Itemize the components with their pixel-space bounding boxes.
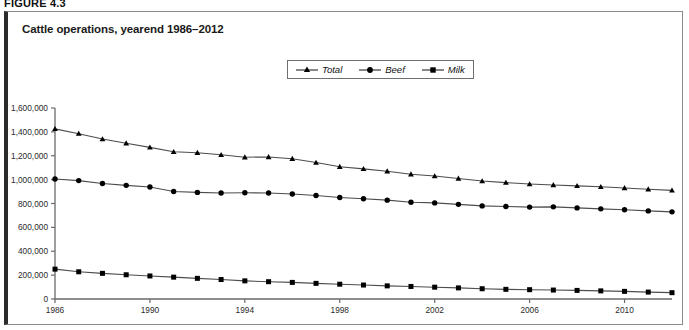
x-tick-label: 1998 (331, 305, 350, 315)
data-point (195, 276, 200, 281)
y-tick-label: 800,000 (18, 199, 48, 209)
data-point (385, 197, 390, 202)
data-point (76, 178, 81, 183)
data-point (622, 289, 627, 294)
data-point (527, 287, 532, 292)
data-point (266, 279, 271, 284)
series-milk (53, 267, 675, 296)
y-tick-label: 600,000 (18, 222, 48, 232)
data-point (337, 282, 342, 287)
data-point (195, 190, 200, 195)
data-point (503, 204, 508, 209)
y-tick-label: 200,000 (18, 270, 48, 280)
series-total (52, 126, 675, 193)
line-chart: 1,600,0001,400,0001,200,0001,000,000800,… (0, 0, 689, 330)
data-point (290, 191, 295, 196)
x-tick-label: 2002 (425, 305, 444, 315)
figure-container: FIGURE 4.3 Cattle operations, yearend 19… (0, 0, 689, 330)
data-point (408, 200, 413, 205)
data-point (171, 189, 176, 194)
data-point (646, 290, 651, 295)
data-point (574, 205, 579, 210)
data-point (123, 183, 128, 188)
data-point (622, 207, 627, 212)
data-point (432, 285, 437, 290)
data-point (456, 202, 461, 207)
data-point (670, 290, 675, 295)
y-tick-label: 1,000,000 (11, 175, 48, 185)
data-point (124, 272, 129, 277)
series-line (55, 129, 672, 190)
data-point (456, 285, 461, 290)
data-point (480, 286, 485, 291)
data-point (598, 206, 603, 211)
data-point (219, 277, 224, 282)
data-point (52, 126, 58, 131)
plot-area: 1,600,0001,400,0001,200,0001,000,000800,… (0, 0, 689, 330)
data-point (551, 288, 556, 293)
x-tick-label: 1994 (236, 305, 255, 315)
x-tick-label: 1986 (46, 305, 65, 315)
data-point (52, 176, 57, 181)
data-point (551, 204, 556, 209)
y-tick-label: 0 (43, 294, 48, 304)
x-tick-label: 2006 (520, 305, 539, 315)
data-point (361, 283, 366, 288)
y-tick-label: 400,000 (18, 246, 48, 256)
data-point (171, 275, 176, 280)
data-point (408, 284, 413, 289)
data-point (147, 184, 152, 189)
data-point (218, 190, 223, 195)
data-point (646, 208, 651, 213)
data-point (479, 203, 484, 208)
x-tick-label: 2010 (615, 305, 634, 315)
data-point (598, 288, 603, 293)
data-point (53, 267, 58, 272)
data-point (432, 200, 437, 205)
y-tick-label: 1,400,000 (11, 127, 48, 137)
data-point (100, 271, 105, 276)
data-point (290, 280, 295, 285)
data-point (669, 209, 674, 214)
data-point (361, 196, 366, 201)
data-point (314, 281, 319, 286)
data-point (385, 283, 390, 288)
y-tick-label: 1,600,000 (11, 103, 48, 113)
series-beef (52, 176, 674, 214)
data-point (147, 273, 152, 278)
data-point (575, 288, 580, 293)
y-tick-label: 1,200,000 (11, 151, 48, 161)
data-point (266, 190, 271, 195)
data-point (313, 193, 318, 198)
data-point (100, 181, 105, 186)
data-point (242, 278, 247, 283)
data-point (76, 269, 81, 274)
data-point (337, 195, 342, 200)
data-point (503, 287, 508, 292)
x-tick-label: 1990 (141, 305, 160, 315)
data-point (242, 190, 247, 195)
data-point (527, 204, 532, 209)
